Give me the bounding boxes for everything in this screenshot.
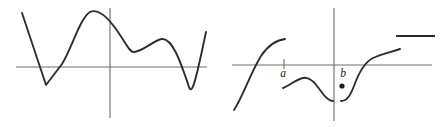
right-graph-right-branch bbox=[341, 49, 400, 101]
right-graph-middle-branch bbox=[283, 78, 333, 101]
right-graph-svg: a b bbox=[223, 0, 447, 127]
right-graph-left-branch bbox=[234, 39, 285, 110]
isolated-point-dot bbox=[339, 83, 344, 88]
right-graph-panel: a b bbox=[223, 0, 447, 127]
axis-label-b: b bbox=[340, 67, 346, 79]
figure-root: a b bbox=[0, 0, 447, 127]
left-graph-panel bbox=[0, 0, 223, 127]
axis-label-a: a bbox=[280, 67, 286, 79]
left-graph-wavy-curve bbox=[22, 11, 206, 89]
left-graph-svg bbox=[0, 0, 223, 127]
